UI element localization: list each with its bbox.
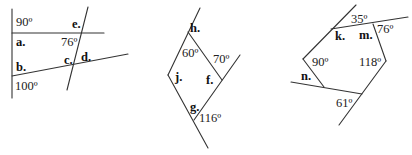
figure-2: 60º 70º 116º h. j. f. g. (168, 8, 240, 148)
figure-1-label-c: c. (64, 53, 73, 67)
figure-2-angle-116: 116º (199, 111, 221, 125)
figure-1-label-d: d. (81, 50, 91, 64)
figure-1: 90º 76º 100º e. a. c. d. b. (12, 7, 128, 98)
figure-3-upper-left-side (303, 5, 356, 59)
figure-3-angle-118: 118º (359, 55, 381, 69)
figure-1-angle-76: 76º (61, 35, 78, 49)
figure-3: 35º 76º 90º 118º 61º k. m. n. (291, 5, 408, 125)
figure-1-label-a: a. (16, 35, 25, 49)
figure-2-angle-70: 70º (213, 52, 230, 66)
figure-2-label-g: g. (190, 100, 199, 114)
figure-3-lower-right-side (339, 61, 386, 125)
figure-2-angle-60: 60º (182, 46, 199, 60)
figure-3-label-n: n. (301, 69, 311, 83)
angle-diagrams: 90º 76º 100º e. a. c. d. b. 60º 70º 116º… (0, 0, 412, 155)
figure-3-label-k: k. (335, 29, 345, 43)
figure-1-label-e: e. (72, 17, 81, 31)
figure-3-angle-76: 76º (377, 22, 394, 36)
figure-2-label-f: f. (206, 73, 213, 87)
figure-3-angle-35: 35º (351, 12, 368, 26)
figure-2-label-j: j. (174, 70, 182, 84)
figure-2-label-h: h. (190, 21, 200, 35)
figure-1-angle-100: 100º (15, 79, 38, 93)
figure-3-bottom-side (291, 82, 362, 94)
figure-1-label-b: b. (16, 60, 26, 74)
figure-1-angle-90: 90º (16, 15, 33, 29)
figure-3-label-m: m. (359, 28, 373, 42)
figure-3-angle-90: 90º (312, 55, 329, 69)
figure-3-angle-61: 61º (336, 96, 353, 110)
